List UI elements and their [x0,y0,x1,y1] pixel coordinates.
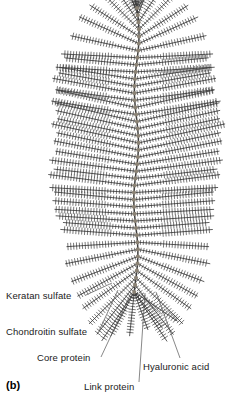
keratan-sulfate-bristle [132,259,133,261]
chondroitin-sulfate-bristle [172,270,173,273]
chondroitin-sulfate-bristle [112,251,113,254]
chondroitin-sulfate-bristle [66,261,67,264]
chondroitin-sulfate-bristle [212,143,213,146]
chondroitin-sulfate-bristle [189,147,190,150]
chondroitin-sulfate-bristle [121,303,124,305]
chondroitin-sulfate-bristle [169,133,170,136]
chondroitin-sulfate-bristle [195,127,196,130]
chondroitin-sulfate-bristle [217,111,218,114]
chondroitin-sulfate-bristle [209,118,210,121]
chondroitin-sulfate-bristle [167,306,169,308]
chondroitin-sulfate-bristle [115,22,117,24]
chondroitin-sulfate-bristle [86,147,87,150]
chondroitin-sulfate-bristle [200,262,201,265]
chondroitin-sulfate-bristle [163,275,164,278]
chondroitin-sulfate-bristle [80,109,81,112]
chondroitin-sulfate-bristle [177,82,178,85]
chondroitin-sulfate-bristle [157,300,159,302]
chondroitin-sulfate-bristle [64,134,65,137]
chondroitin-sulfate-bristle [148,8,150,10]
chondroitin-sulfate-bristle [96,22,97,25]
chondroitin-sulfate-bristle [99,131,100,134]
chondroitin-sulfate-bristle [166,3,168,5]
keratan-sulfate-bristle [153,25,154,27]
chondroitin-sulfate-bristle [163,302,165,304]
chondroitin-sulfate-bristle [189,125,190,128]
chondroitin-sulfate-bristle [108,18,110,21]
chondroitin-sulfate-bristle [184,97,185,100]
chondroitin-sulfate-bristle [159,310,161,312]
chondroitin-sulfate-bristle [189,256,190,259]
chondroitin-sulfate-bristle [92,133,93,136]
keratan-sulfate-bristle [120,282,121,284]
chondroitin-sulfate-bristle [191,109,192,112]
chondroitin-sulfate-bristle [98,257,99,260]
chondroitin-sulfate-bristle [59,123,60,126]
chondroitin-sulfate-bristle [221,141,222,144]
chondroitin-sulfate-bristle [182,116,183,119]
chondroitin-sulfate-bristle [95,258,96,261]
chondroitin-sulfate-bristle [166,252,167,255]
chondroitin-sulfate-bristle [93,8,95,10]
chondroitin-sulfate-bristle [88,111,89,114]
keratan-sulfate-bristle [135,12,137,13]
chondroitin-sulfate-bristle [178,142,179,145]
keratan-sulfate-bristle [130,0,132,1]
keratan-sulfate-bristle [127,305,129,306]
chondroitin-sulfate-bristle [166,149,167,152]
chondroitin-sulfate-bristle [111,322,114,324]
keratan-sulfate-bristle [149,37,150,39]
chondroitin-sulfate-bristle [177,23,178,26]
chondroitin-sulfate-bristle [56,98,57,101]
chondroitin-sulfate-bristle [101,128,102,131]
chondroitin-sulfate-bristle [153,292,155,294]
chondroitin-sulfate-bristle [94,119,95,122]
chondroitin-sulfate-bristle [83,16,84,19]
chondroitin-sulfate-bristle [189,305,191,308]
chondroitin-sulfate-bristle [178,149,179,152]
chondroitin-sulfate-bristle [100,84,101,87]
chondroitin-sulfate-bristle [173,280,175,283]
chondroitin-sulfate-bristle [67,140,68,143]
chondroitin-sulfate-bristle [59,130,60,133]
chondroitin-sulfate-bristle [100,27,101,30]
chondroitin-sulfate-bristle [92,298,94,301]
chondroitin-sulfate-bristle [55,141,56,144]
chondroitin-sulfate-bristle [109,122,110,125]
chondroitin-sulfate-bristle [201,129,202,132]
chondroitin-sulfate-bristle [159,31,160,34]
chondroitin-sulfate-bristle [93,137,94,140]
chondroitin-sulfate-bristle [107,126,108,129]
chondroitin-sulfate-bristle [184,23,185,26]
chondroitin-sulfate-bristle [174,10,176,13]
keratan-sulfate-bristle [141,300,143,301]
chondroitin-sulfate-bristle [117,275,118,278]
chondroitin-sulfate-bristle [106,318,108,320]
label-chondroitin-sulfate: Chondroitin sulfate [6,326,87,337]
chondroitin-sulfate-bristle [167,106,168,109]
chondroitin-sulfate-bristle [86,97,87,100]
chondroitin-sulfate-bristle [136,306,139,307]
keratan-sulfate-bristle [138,302,140,303]
chondroitin-sulfate-bristle [184,133,185,136]
chondroitin-sulfate-bristle [92,321,94,323]
chondroitin-sulfate-bristle [174,113,175,116]
chondroitin-sulfate-bristle [78,95,79,98]
chondroitin-sulfate-bristle [105,278,106,281]
chondroitin-sulfate-bristle [74,82,75,85]
chondroitin-sulfate-bristle [61,134,62,137]
chondroitin-sulfate-bristle [90,104,91,107]
chondroitin-sulfate-bristle [204,129,205,132]
chondroitin-sulfate-bristle [103,43,104,46]
chondroitin-sulfate-bristle [156,304,158,306]
keratan-sulfate-bristle [123,281,124,283]
chondroitin-sulfate-bristle [63,112,64,115]
chondroitin-sulfate-bristle [194,82,195,85]
chondroitin-sulfate-bristle [113,274,114,277]
keratan-sulfate-bristle [135,20,137,21]
chondroitin-sulfate-bristle [83,147,84,150]
chondroitin-sulfate-bristle [119,320,122,321]
keratan-sulfate-bristle [119,264,120,266]
chondroitin-sulfate-bristle [94,76,95,79]
chondroitin-sulfate-bristle [173,320,175,323]
